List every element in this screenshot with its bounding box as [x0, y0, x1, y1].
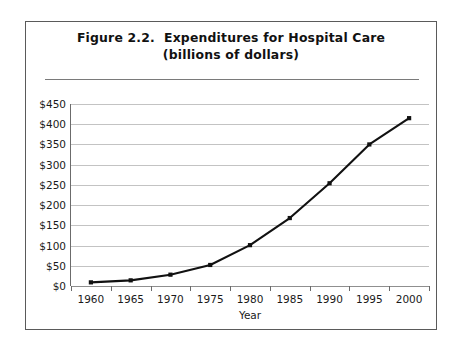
- gridline: [71, 286, 429, 287]
- x-axis-tick: [71, 286, 72, 291]
- x-axis-tick-label: 1990: [316, 293, 343, 305]
- x-axis-tick-label: 2000: [396, 293, 423, 305]
- data-point-marker: [168, 273, 172, 277]
- series-line: [91, 118, 409, 282]
- data-point-marker: [208, 263, 212, 267]
- x-axis-tick-label: 1995: [356, 293, 383, 305]
- data-point-marker: [129, 278, 133, 282]
- line-chart: $0$50$100$150$200$250$300$350$400$450 19…: [71, 104, 429, 286]
- y-axis-tick-label: $300: [39, 159, 66, 171]
- data-point-marker: [327, 181, 331, 185]
- y-axis-tick-label: $200: [39, 199, 66, 211]
- data-point-marker: [288, 216, 292, 220]
- x-axis-tick-label: 1980: [237, 293, 264, 305]
- y-axis-tick-label: $350: [39, 138, 66, 150]
- data-point-marker: [248, 243, 252, 247]
- x-axis-tick-label: 1975: [197, 293, 224, 305]
- y-axis-tick-label: $250: [39, 179, 66, 191]
- data-point-marker: [407, 116, 411, 120]
- y-axis-tick-label: $450: [39, 98, 66, 110]
- y-axis-tick-label: $150: [39, 219, 66, 231]
- x-axis-tick: [270, 286, 271, 291]
- data-point-marker: [367, 142, 371, 146]
- plot-area: $0$50$100$150$200$250$300$350$400$450 19…: [71, 104, 429, 286]
- y-axis-tick-label: $400: [39, 118, 66, 130]
- y-axis-tick-label: $100: [39, 240, 66, 252]
- x-axis-tick: [389, 286, 390, 291]
- title-divider: [45, 79, 419, 80]
- figure-title-line-1: Figure 2.2. Expenditures for Hospital Ca…: [26, 29, 436, 46]
- x-axis-tick-label: 1965: [117, 293, 144, 305]
- x-axis-tick-label: 1970: [157, 293, 184, 305]
- x-axis-tick: [349, 286, 350, 291]
- x-axis-tick: [151, 286, 152, 291]
- x-axis-tick: [429, 286, 430, 291]
- data-point-marker: [89, 280, 93, 284]
- y-axis-tick-label: $50: [46, 260, 66, 272]
- figure-title: Figure 2.2. Expenditures for Hospital Ca…: [26, 29, 436, 63]
- x-axis-tick: [190, 286, 191, 291]
- x-axis-tick-label: 1985: [276, 293, 303, 305]
- data-series: [71, 104, 429, 286]
- x-axis-tick: [310, 286, 311, 291]
- x-axis-title: Year: [71, 309, 429, 321]
- figure-frame: Figure 2.2. Expenditures for Hospital Ca…: [25, 21, 437, 330]
- y-axis-tick-label: $0: [53, 280, 66, 292]
- x-axis-tick-label: 1960: [78, 293, 105, 305]
- x-axis-tick: [230, 286, 231, 291]
- x-axis-tick: [111, 286, 112, 291]
- figure-title-line-2: (billions of dollars): [26, 46, 436, 63]
